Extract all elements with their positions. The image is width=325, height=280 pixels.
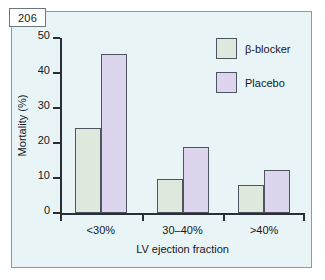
bar [264, 170, 290, 213]
bar [157, 179, 183, 213]
y-axis-tick: 40 [53, 72, 60, 74]
category-label: >40% [250, 224, 278, 236]
y-axis-tick-label: 10 [38, 169, 50, 181]
x-axis-tick [142, 213, 144, 221]
y-axis-tick-label: 20 [38, 134, 50, 146]
bar [75, 128, 101, 213]
legend-item-label: Placebo [245, 77, 285, 89]
bar [183, 147, 209, 213]
legend-item-label: β-blocker [245, 43, 290, 55]
y-axis-tick: 20 [53, 142, 60, 144]
plot-area: 01020304050 <30%30–40%>40% [60, 38, 305, 213]
x-axis-tick [60, 213, 62, 221]
x-axis-tick [303, 213, 305, 221]
bar [101, 54, 127, 213]
legend-swatch-icon [216, 38, 237, 59]
y-axis-tick-label: 40 [38, 64, 50, 76]
x-axis-tick [223, 213, 225, 221]
category-label: <30% [87, 224, 115, 236]
y-axis-title: Mortality (%) [14, 38, 30, 213]
figure-number-badge: 206 [9, 8, 46, 27]
y-axis-tick: 0 [53, 212, 60, 214]
y-axis-tick: 30 [53, 107, 60, 109]
y-axis-tick: 50 [53, 37, 60, 39]
y-axis-tick-label: 0 [44, 204, 50, 216]
y-axis-line [60, 38, 62, 214]
x-axis-line [60, 213, 305, 215]
figure-number-text: 206 [18, 12, 37, 24]
figure-container: 206 01020304050 <30%30–40%>40% Mortality… [0, 0, 325, 280]
bar [238, 185, 264, 213]
y-axis-tick-label: 30 [38, 99, 50, 111]
x-axis-title: LV ejection fraction [60, 243, 305, 255]
y-axis-tick-label: 50 [38, 29, 50, 41]
legend-item-1: Placebo [216, 72, 285, 93]
legend-item-0: β-blocker [216, 38, 290, 59]
y-axis-tick: 10 [53, 177, 60, 179]
category-label: 30–40% [162, 224, 202, 236]
legend-swatch-icon [216, 72, 237, 93]
